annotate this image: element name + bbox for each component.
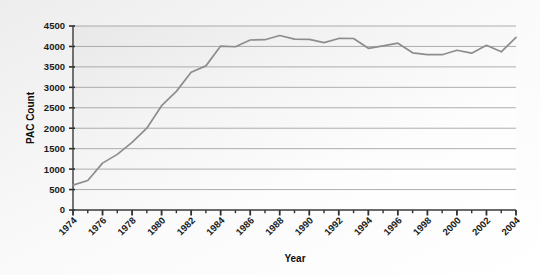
y-axis-title: PAC Count (25, 91, 36, 144)
y-tick-label-1500: 1500 (44, 143, 65, 154)
y-tick-label-4000: 4000 (44, 41, 65, 52)
y-tick-label-3000: 3000 (44, 82, 65, 93)
plot-area-background (73, 26, 516, 210)
y-tick-label-500: 500 (49, 184, 65, 195)
x-axis-title: Year (284, 253, 305, 264)
chart-canvas: 050010001500200025003000350040004500 197… (0, 0, 540, 275)
y-tick-label-1000: 1000 (44, 164, 65, 175)
y-tick-label-0: 0 (60, 204, 65, 215)
pac-count-line-chart: 050010001500200025003000350040004500 197… (0, 0, 540, 275)
y-tick-label-4500: 4500 (44, 20, 65, 31)
y-tick-label-2000: 2000 (44, 123, 65, 134)
y-tick-label-2500: 2500 (44, 102, 65, 113)
y-tick-label-3500: 3500 (44, 61, 65, 72)
